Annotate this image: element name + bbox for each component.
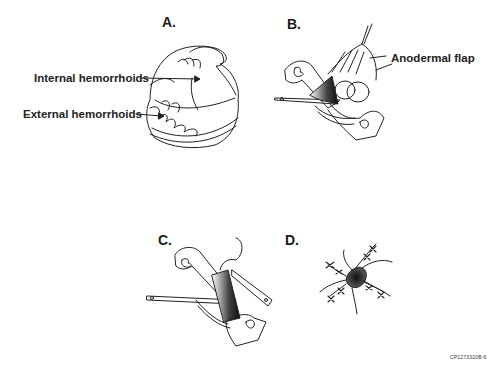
panel-a-drawing xyxy=(136,46,238,148)
panel-c-drawing xyxy=(147,238,272,346)
panel-b-drawing xyxy=(275,24,392,140)
panel-d-drawing xyxy=(320,244,392,314)
illustration xyxy=(0,0,503,369)
